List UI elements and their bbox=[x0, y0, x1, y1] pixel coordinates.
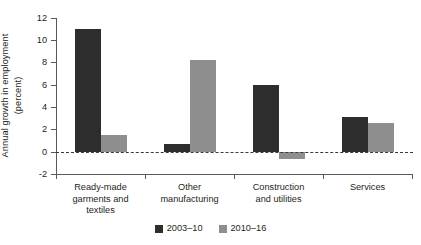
x-category-label-other-manufacturing: Other manufacturing bbox=[145, 182, 234, 205]
y-tick-label-12: 12 bbox=[7, 14, 47, 23]
chart-legend: 2003–10 2010–16 bbox=[0, 224, 421, 233]
y-tick-label-0: 0 bbox=[7, 148, 47, 157]
y-tick-label-10: 10 bbox=[7, 36, 47, 45]
bar-other-manufacturing-2010-16 bbox=[190, 60, 216, 152]
y-tick-mark-6 bbox=[51, 85, 56, 86]
bar-construction-2010-16 bbox=[279, 152, 305, 159]
y-tick-mark-12 bbox=[51, 18, 56, 19]
x-category-label-ready-made: Ready-made garments and textiles bbox=[56, 182, 145, 217]
x-category-label-services: Services bbox=[323, 182, 412, 194]
x-tick-mark-3 bbox=[323, 174, 324, 179]
y-axis-title: Annual growth in employment (percent) bbox=[0, 6, 24, 186]
bar-services-2003-10 bbox=[342, 117, 368, 152]
y-tick-label-2: 2 bbox=[7, 125, 47, 134]
y-tick-label-minus2: -2 bbox=[7, 170, 47, 179]
legend-swatch-icon-2003-10 bbox=[155, 225, 163, 233]
zero-reference-line bbox=[56, 152, 413, 153]
x-tick-mark-1 bbox=[145, 174, 146, 179]
legend-item-2010-16: 2010–16 bbox=[219, 224, 267, 233]
x-tick-mark-4 bbox=[412, 174, 413, 179]
bar-ready-made-2003-10 bbox=[75, 29, 101, 152]
bar-services-2010-16 bbox=[368, 123, 394, 152]
x-tick-mark-2 bbox=[234, 174, 235, 179]
bar-chart-figure: Annual growth in employment (percent) 12… bbox=[0, 0, 421, 245]
bar-ready-made-2010-16 bbox=[101, 135, 127, 152]
legend-swatch-icon-2010-16 bbox=[219, 225, 227, 233]
legend-label-2010-16: 2010–16 bbox=[231, 224, 267, 233]
y-tick-label-6: 6 bbox=[7, 81, 47, 90]
y-tick-mark-2 bbox=[51, 129, 56, 130]
y-tick-mark-4 bbox=[51, 107, 56, 108]
y-tick-mark-10 bbox=[51, 40, 56, 41]
x-tick-mark-0 bbox=[56, 174, 57, 179]
bar-other-manufacturing-2003-10 bbox=[164, 144, 190, 152]
x-category-label-construction: Construction and utilities bbox=[234, 182, 323, 205]
bar-construction-2003-10 bbox=[253, 85, 279, 152]
legend-label-2003-10: 2003–10 bbox=[167, 224, 203, 233]
legend-item-2003-10: 2003–10 bbox=[155, 224, 203, 233]
y-tick-mark-8 bbox=[51, 62, 56, 63]
y-tick-label-4: 4 bbox=[7, 103, 47, 112]
y-tick-label-8: 8 bbox=[7, 58, 47, 67]
